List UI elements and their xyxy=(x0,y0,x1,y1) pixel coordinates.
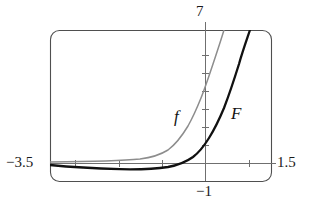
y-max-label: 7 xyxy=(196,4,204,19)
graph-figure: 7 −3.5 1.5 −1 f F xyxy=(0,0,309,203)
x-min-label: −3.5 xyxy=(6,155,33,170)
curve-label-F: F xyxy=(231,105,241,122)
plot-canvas xyxy=(0,0,309,203)
y-min-label: −1 xyxy=(196,184,212,199)
curve-label-f: f xyxy=(174,108,179,125)
x-max-label: 1.5 xyxy=(277,155,296,170)
